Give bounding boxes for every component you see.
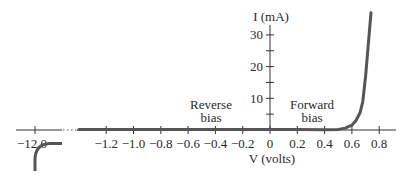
diode-iv-chart: −12.0 −1.2−1.0−0.8−0.6−0.4−0.200.20.40.6… [0, 0, 406, 178]
x-tick-label: 0.4 [316, 136, 333, 151]
x-tick-label: −1.0 [122, 136, 146, 151]
forward-bias-label-line2: bias [302, 110, 323, 125]
x-axis-title: V (volts) [249, 151, 295, 166]
x-tick-label: −1.2 [94, 136, 118, 151]
x-tick-label: 0 [267, 136, 274, 151]
x-tick-label: 0.8 [371, 136, 387, 151]
y-axis-title: I (mA) [253, 9, 289, 24]
y-tick-label: 30 [250, 27, 263, 42]
iv-curve [79, 13, 371, 130]
reverse-bias-label-line2: bias [201, 110, 222, 125]
x-tick-label: 0.2 [289, 136, 305, 151]
x-tick-label: 0.6 [344, 136, 361, 151]
y-tick-label: 20 [250, 59, 263, 74]
y-tick-label: 10 [250, 91, 263, 106]
x-tick-label: −0.4 [204, 136, 228, 151]
break-axis-segment: −12.0 [16, 126, 77, 171]
x-tick-label: −0.2 [231, 136, 255, 151]
breakdown-curve [35, 144, 62, 172]
x-tick-label: −0.8 [149, 136, 173, 151]
x-tick-label: −0.6 [176, 136, 200, 151]
